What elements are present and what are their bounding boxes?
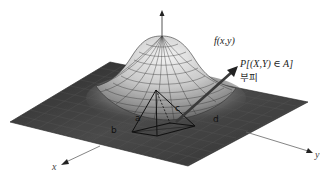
density-diagram: f(x,y) P[(X,Y) ∈ A] 부피 x y a b c d xyxy=(0,0,330,180)
point-d-label: d xyxy=(213,114,219,124)
point-a-label: a xyxy=(135,113,141,123)
x-axis-arrow-icon xyxy=(61,159,69,165)
point-b-label: b xyxy=(111,125,117,135)
z-axis xyxy=(160,10,165,37)
point-c-label: c xyxy=(175,103,180,113)
diagram-canvas: f(x,y) P[(X,Y) ∈ A] 부피 x y a b c d xyxy=(0,0,330,180)
function-label: f(x,y) xyxy=(214,35,235,47)
probability-label: P[(X,Y) ∈ A] xyxy=(239,58,293,70)
volume-label: 부피 xyxy=(240,72,258,83)
y-axis-arrow-icon xyxy=(306,148,313,153)
z-axis-arrow-icon xyxy=(160,10,165,16)
y-axis-label: y xyxy=(314,149,320,160)
y-axis xyxy=(246,132,313,153)
x-axis-label: x xyxy=(51,161,57,172)
x-axis xyxy=(61,146,100,165)
